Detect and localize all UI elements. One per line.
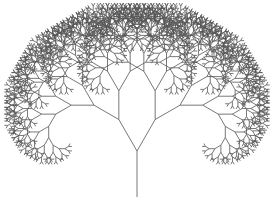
fractal-tree-canvas: fractal binary tree: [0, 0, 271, 203]
tree-branches: [4, 3, 269, 197]
fractal-tree-image: [0, 0, 271, 203]
